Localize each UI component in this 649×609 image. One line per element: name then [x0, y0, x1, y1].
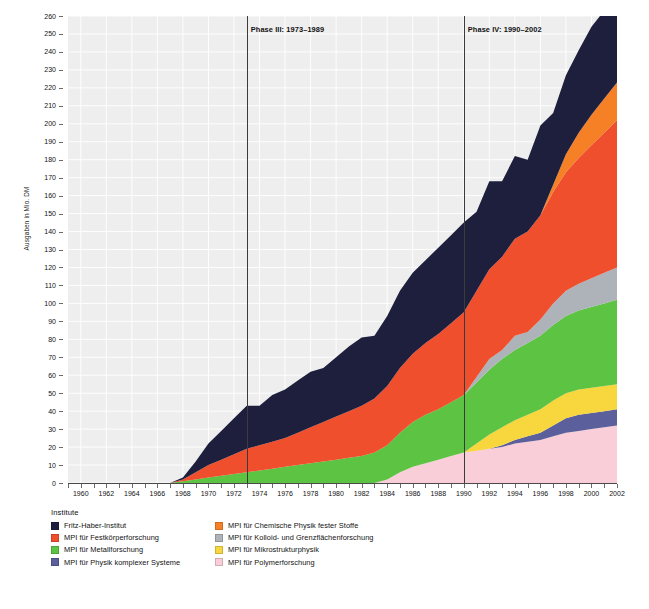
y-tick-mark — [59, 483, 63, 484]
x-tick-mark — [566, 484, 567, 488]
x-tick-mark — [604, 484, 605, 488]
legend-color-swatch — [215, 534, 223, 542]
y-tick-label: 20 — [48, 444, 56, 451]
legend-item[interactable]: MPI für Physik komplexer Systeme — [51, 558, 215, 567]
legend-title: Institute — [51, 508, 611, 517]
x-tick-mark — [591, 484, 592, 488]
x-tick-mark — [234, 484, 235, 488]
y-tick-mark — [59, 232, 63, 233]
x-tick-mark — [221, 484, 222, 488]
x-tick-mark — [387, 484, 388, 488]
x-tick-mark — [451, 484, 452, 488]
y-tick-label: 60 — [48, 372, 56, 379]
legend-item-label: MPI für Festkörperforschung — [64, 533, 159, 542]
x-tick-mark — [94, 484, 95, 488]
x-tick-mark — [298, 484, 299, 488]
x-tick-mark — [208, 484, 209, 488]
chart-figure: Ausgaben in Mio. DM 01020304050607080901… — [0, 0, 649, 609]
legend-color-swatch — [51, 522, 59, 530]
legend-item-label: MPI für Polymerforschung — [228, 558, 315, 567]
y-tick-mark — [59, 160, 63, 161]
y-tick-label: 190 — [44, 138, 56, 145]
legend-item-label: MPI für Chemische Physik fester Stoffe — [228, 521, 358, 530]
y-tick-mark — [59, 196, 63, 197]
legend-item-label: MPI für Physik komplexer Systeme — [64, 558, 180, 567]
y-tick-label: 180 — [44, 156, 56, 163]
x-tick-mark — [413, 484, 414, 488]
phase-divider-line — [247, 16, 248, 483]
x-tick-mark — [502, 484, 503, 488]
y-tick-label: 10 — [48, 462, 56, 469]
y-tick-label: 30 — [48, 426, 56, 433]
legend-item[interactable]: MPI für Festkörperforschung — [51, 533, 215, 542]
y-tick-mark — [59, 250, 63, 251]
phase-divider-line — [464, 16, 465, 483]
y-tick-mark — [59, 52, 63, 53]
legend-color-swatch — [215, 558, 223, 566]
x-tick-mark — [464, 484, 465, 488]
y-tick-label: 110 — [45, 282, 56, 289]
x-tick-mark — [119, 484, 120, 488]
x-tick-mark — [196, 484, 197, 488]
x-tick-mark — [528, 484, 529, 488]
y-tick-label: 170 — [44, 174, 56, 181]
y-tick-label: 220 — [44, 84, 56, 91]
y-tick-label: 40 — [48, 408, 56, 415]
x-tick-mark — [438, 484, 439, 488]
legend-column-left: Fritz-Haber-InstitutMPI für Festkörperfo… — [51, 521, 215, 567]
y-tick-mark — [59, 321, 63, 322]
x-axis-line — [68, 483, 617, 484]
x-tick-mark — [425, 484, 426, 488]
legend-item[interactable]: MPI für Polymerforschung — [215, 558, 373, 567]
y-tick-mark — [59, 411, 63, 412]
y-tick-label: 80 — [48, 336, 56, 343]
x-tick-mark — [106, 484, 107, 488]
legend-item-label: MPI für Kolloid- und Grenzflächenforschu… — [228, 533, 373, 542]
y-tick-label: 100 — [44, 300, 56, 307]
y-tick-label: 230 — [44, 66, 56, 73]
y-tick-mark — [59, 339, 63, 340]
x-tick-mark — [285, 484, 286, 488]
y-tick-label: 210 — [44, 102, 56, 109]
x-tick-mark — [323, 484, 324, 488]
x-tick-mark — [183, 484, 184, 488]
y-tick-mark — [59, 124, 63, 125]
x-tick-mark — [157, 484, 158, 488]
legend-item-label: MPI für Mikrostrukturphysik — [228, 545, 319, 554]
legend-color-swatch — [215, 546, 223, 554]
y-tick-label: 70 — [48, 354, 56, 361]
legend-item[interactable]: Fritz-Haber-Institut — [51, 521, 215, 530]
y-tick-mark — [59, 285, 63, 286]
y-tick-label: 130 — [44, 246, 56, 253]
y-tick-label: 250 — [44, 30, 56, 37]
y-tick-label: 260 — [44, 13, 56, 20]
y-tick-mark — [59, 16, 63, 17]
x-tick-label: 2002 — [602, 490, 632, 498]
x-tick-mark — [515, 484, 516, 488]
stacked-area-svg — [68, 16, 617, 483]
x-tick-mark — [247, 484, 248, 488]
legend-item[interactable]: MPI für Metallforschung — [51, 545, 215, 554]
y-tick-label: 90 — [48, 318, 56, 325]
y-tick-mark — [59, 142, 63, 143]
legend-item[interactable]: MPI für Kolloid- und Grenzflächenforschu… — [215, 533, 373, 542]
legend-item[interactable]: MPI für Chemische Physik fester Stoffe — [215, 521, 373, 530]
legend-color-swatch — [215, 522, 223, 530]
x-tick-mark — [400, 484, 401, 488]
y-tick-label: 120 — [44, 264, 56, 271]
x-tick-mark — [272, 484, 273, 488]
y-tick-mark — [59, 178, 63, 179]
x-tick-mark — [374, 484, 375, 488]
legend-item[interactable]: MPI für Mikrostrukturphysik — [215, 545, 373, 554]
y-tick-mark — [59, 429, 63, 430]
y-tick-mark — [59, 357, 63, 358]
x-tick-mark — [349, 484, 350, 488]
x-tick-mark — [553, 484, 554, 488]
phase-label: Phase III: 1973–1989 — [251, 25, 325, 34]
y-tick-mark — [59, 393, 63, 394]
legend-column-right: MPI für Chemische Physik fester StoffeMP… — [215, 521, 373, 567]
y-tick-mark — [59, 375, 63, 376]
chart-legend: Institute Fritz-Haber-InstitutMPI für Fe… — [51, 508, 611, 567]
y-tick-mark — [59, 88, 63, 89]
y-tick-mark — [59, 70, 63, 71]
